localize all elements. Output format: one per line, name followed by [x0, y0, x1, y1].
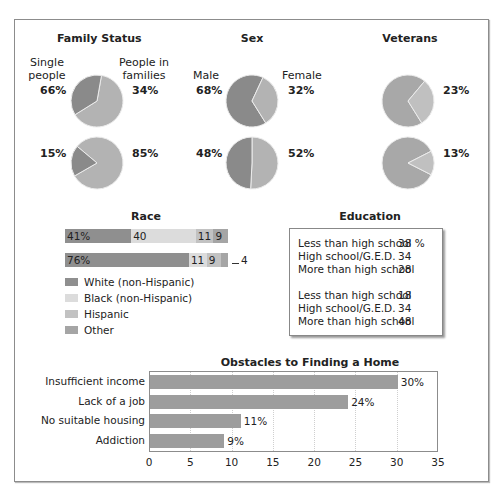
family-pie2-right-pct: 85% [132, 147, 158, 160]
veterans-pie2-pct: 13% [443, 147, 469, 160]
education-label: More than high school [298, 263, 414, 275]
veterans-title: Veterans [375, 32, 445, 45]
male-slice [226, 137, 252, 189]
education-label: High school/G.E.D. [298, 250, 396, 262]
sex-pie-1 [225, 74, 279, 128]
obstacle-category-label: No suitable housing [41, 413, 145, 427]
x-tick-label: 25 [349, 456, 362, 468]
education-label: Less than high school [298, 237, 412, 249]
families-label-line1: People in [118, 56, 170, 69]
legend-item: White (non-Hispanic) [65, 275, 194, 289]
legend-label: Other [84, 323, 114, 337]
x-tick-label: 20 [307, 456, 320, 468]
male-label: Male [193, 69, 219, 82]
education-row: More than high school28 [298, 263, 438, 276]
race-bar-1: 41%40119 [65, 229, 228, 243]
single-people-label: Single people [27, 56, 67, 82]
education-label: High school/G.E.D. [298, 302, 396, 314]
people-in-families-label: People in families [118, 56, 170, 82]
obstacle-bar [150, 375, 398, 389]
obstacles-title: Obstacles to Finding a Home [210, 356, 410, 369]
education-row: High school/G.E.D.34 [298, 250, 438, 263]
education-table: Less than high school38 %High school/G.E… [289, 228, 443, 336]
family-pie1-left-pct: 66% [40, 84, 66, 97]
education-value: 34 [398, 250, 411, 263]
obstacles-plot-area [149, 371, 438, 452]
education-row: Less than high school38 % [298, 237, 438, 250]
sex-title: Sex [232, 32, 272, 45]
sex-pie-2 [225, 136, 279, 190]
x-tick-label: 15 [266, 456, 279, 468]
family-pie1-right-pct: 34% [132, 84, 158, 97]
race-title: Race [126, 210, 166, 223]
race-callout-value: 4 [241, 254, 248, 266]
legend-swatch [65, 310, 78, 318]
education-label: More than high school [298, 315, 414, 327]
education-row: Less than high school18 [298, 289, 438, 302]
sex-pie1-left-pct: 68% [196, 84, 222, 97]
sex-pie1-right-pct: 32% [288, 84, 314, 97]
education-value: 48 [398, 315, 411, 328]
veterans-pie-1 [381, 74, 435, 128]
legend-label: White (non-Hispanic) [84, 275, 194, 289]
single-label-line1: Single [27, 56, 67, 69]
family-pie-2 [70, 136, 124, 190]
obstacle-value-label: 9% [227, 434, 244, 448]
legend-item: Black (non-Hispanic) [65, 291, 192, 305]
obstacle-category-label: Insufficient income [45, 374, 145, 388]
obstacle-category-label: Addiction [96, 433, 145, 447]
education-value: 28 [398, 263, 411, 276]
legend-item: Hispanic [65, 307, 129, 321]
x-tick-label: 30 [390, 456, 403, 468]
legend-label: Hispanic [84, 307, 129, 321]
education-row: High school/G.E.D.34 [298, 302, 438, 315]
obstacle-value-label: 30% [401, 375, 424, 389]
obstacle-bar [150, 414, 241, 428]
race-segment-other [221, 253, 228, 267]
race-segment-white-non-hispanic: 76% [65, 253, 189, 267]
obstacle-category-label: Lack of a job [78, 394, 145, 408]
legend-label: Black (non-Hispanic) [84, 291, 192, 305]
obstacle-value-label: 11% [244, 414, 267, 428]
race-callout-line [232, 263, 239, 264]
family-status-title: Family Status [57, 32, 137, 45]
education-label: Less than high school [298, 289, 412, 301]
x-tick-label: 5 [187, 456, 194, 468]
race-segment-hispanic: 9 [207, 253, 222, 267]
single-label-line2: people [27, 69, 67, 82]
race-segment-black-non-hispanic: 40 [131, 229, 196, 243]
obstacle-value-label: 24% [351, 395, 374, 409]
legend-item: Other [65, 323, 114, 337]
education-value: 18 [398, 289, 411, 302]
sex-pie2-left-pct: 48% [196, 147, 222, 160]
race-segment-white-non-hispanic: 41% [65, 229, 131, 243]
x-tick-label: 10 [225, 456, 238, 468]
family-pie2-left-pct: 15% [40, 147, 66, 160]
race-segment-other: 9 [213, 229, 228, 243]
race-segment-black-non-hispanic: 11 [189, 253, 207, 267]
family-pie-1 [70, 74, 124, 128]
legend-swatch [65, 294, 78, 302]
race-bar-2: 76%119 [65, 253, 228, 267]
female-label: Female [282, 69, 322, 82]
race-segment-hispanic: 11 [196, 229, 214, 243]
education-value: 38 % [398, 237, 425, 250]
veterans-pie1-pct: 23% [443, 84, 469, 97]
x-tick-label: 0 [146, 456, 153, 468]
families-label-line2: families [118, 69, 170, 82]
education-title: Education [330, 210, 410, 223]
education-value: 34 [398, 302, 411, 315]
education-row: More than high school48 [298, 315, 438, 328]
female-slice [251, 137, 278, 189]
obstacle-bar [150, 434, 224, 448]
obstacle-bar [150, 395, 348, 409]
veterans-pie-2 [381, 136, 435, 190]
legend-swatch [65, 278, 78, 286]
sex-pie2-right-pct: 52% [288, 147, 314, 160]
x-tick-label: 35 [431, 456, 444, 468]
legend-swatch [65, 326, 78, 334]
